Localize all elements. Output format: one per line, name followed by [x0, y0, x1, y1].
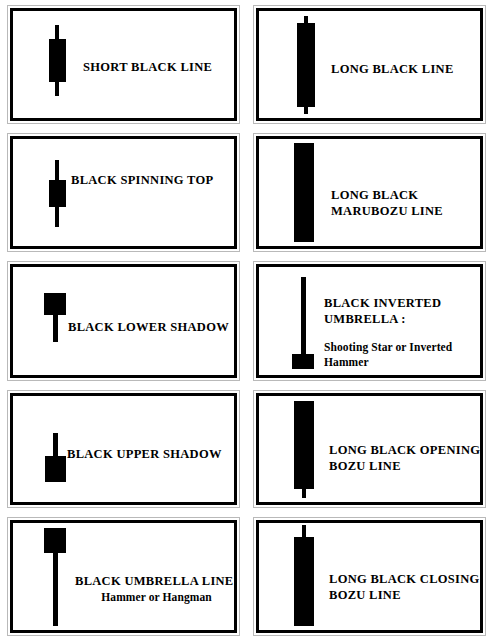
candlestick-panel: LONG BLACK MARUBOZU LINE [253, 133, 486, 252]
panel-frame: LONG BLACK CLOSING BOZU LINE [256, 520, 483, 633]
panel-frame: BLACK INVERTED UMBRELLA :Shooting Star o… [256, 264, 483, 378]
candlestick-panel: BLACK SPINNING TOP [7, 133, 240, 252]
panel-stage: SHORT BLACK LINE [13, 11, 234, 118]
candle-body [297, 23, 315, 108]
panel-label-group: BLACK INVERTED UMBRELLA :Shooting Star o… [324, 295, 483, 370]
candle-body [292, 354, 314, 368]
panel-label-group: BLACK LOWER SHADOW [68, 319, 237, 335]
panel-frame: BLACK UMBRELLA LINE:Hammer or Hangman [10, 520, 237, 633]
panel-title: SHORT BLACK LINE [83, 59, 237, 75]
panel-frame: BLACK UPPER SHADOW [10, 393, 237, 505]
candlestick-black-spinning-top [13, 139, 234, 246]
candlestick-panel: LONG BLACK CLOSING BOZU LINE [253, 517, 486, 636]
panel-frame: LONG BLACK MARUBOZU LINE [256, 136, 483, 249]
candle-body [294, 537, 314, 626]
upper-wick [55, 160, 59, 180]
panel-title: BLACK SPINNING TOP [71, 172, 237, 188]
upper-wick [53, 433, 58, 457]
candlestick-panel: BLACK UMBRELLA LINE:Hammer or Hangman [7, 517, 240, 636]
candlestick-reference-sheet: SHORT BLACK LINELONG BLACK LINEBLACK SPI… [0, 0, 492, 640]
candlestick-panel: LONG BLACK OPENING BOZU LINE [253, 390, 486, 508]
panel-frame: BLACK SPINNING TOP [10, 136, 237, 249]
candle-body [294, 401, 314, 489]
candlestick-grid: SHORT BLACK LINELONG BLACK LINEBLACK SPI… [0, 0, 492, 640]
panel-frame: LONG BLACK LINE [256, 8, 483, 121]
panel-title: LONG BLACK LINE [331, 61, 483, 77]
panel-stage: BLACK SPINNING TOP [13, 139, 234, 246]
lower-wick [53, 313, 58, 341]
panel-subtitle: Shooting Star or Inverted Hammer [324, 340, 483, 370]
candlestick-panel: BLACK UPPER SHADOW [7, 390, 240, 508]
panel-frame: LONG BLACK OPENING BOZU LINE [256, 393, 483, 505]
panel-title: LONG BLACK MARUBOZU LINE [331, 187, 483, 219]
panel-title: LONG BLACK CLOSING BOZU LINE [329, 571, 483, 603]
panel-subtitle: Hammer or Hangman [64, 590, 237, 605]
panel-title: BLACK LOWER SHADOW [68, 319, 237, 335]
panel-stage: BLACK LOWER SHADOW [13, 267, 234, 375]
panel-title: BLACK INVERTED UMBRELLA : [324, 295, 483, 327]
panel-title: LONG BLACK OPENING BOZU LINE [329, 442, 483, 474]
panel-label-group: BLACK UPPER SHADOW [67, 446, 237, 462]
upper-wick [55, 25, 59, 40]
panel-label-group: LONG BLACK CLOSING BOZU LINE [329, 571, 483, 603]
panel-label-group: BLACK SPINNING TOP [71, 172, 237, 188]
panel-frame: BLACK LOWER SHADOW [10, 264, 237, 378]
panel-stage: BLACK INVERTED UMBRELLA :Shooting Star o… [259, 267, 480, 375]
lower-wick [302, 488, 306, 498]
panel-stage: LONG BLACK OPENING BOZU LINE [259, 396, 480, 502]
candle-body [44, 528, 66, 553]
candle-body [294, 143, 314, 241]
candle-body [45, 456, 66, 481]
panel-stage: BLACK UMBRELLA LINE:Hammer or Hangman [13, 523, 234, 630]
panel-label-group: LONG BLACK OPENING BOZU LINE [329, 442, 483, 474]
upper-wick [301, 277, 306, 356]
panel-label-group: BLACK UMBRELLA LINE:Hammer or Hangman [64, 573, 237, 605]
panel-stage: BLACK UPPER SHADOW [13, 396, 234, 502]
panel-title: BLACK UMBRELLA LINE: [64, 573, 237, 589]
candlestick-panel: BLACK LOWER SHADOW [7, 261, 240, 381]
panel-frame: SHORT BLACK LINE [10, 8, 237, 121]
panel-stage: LONG BLACK CLOSING BOZU LINE [259, 523, 480, 630]
candle-body [44, 293, 66, 315]
candlestick-panel: SHORT BLACK LINE [7, 5, 240, 124]
panel-title: BLACK UPPER SHADOW [67, 446, 237, 462]
panel-label-group: SHORT BLACK LINE [83, 59, 237, 75]
lower-wick [55, 206, 59, 226]
lower-wick [304, 106, 308, 113]
panel-stage: LONG BLACK MARUBOZU LINE [259, 139, 480, 246]
candle-body [49, 39, 66, 82]
panel-label-group: LONG BLACK LINE [331, 61, 483, 77]
panel-label-group: LONG BLACK MARUBOZU LINE [331, 187, 483, 219]
candlestick-panel: BLACK INVERTED UMBRELLA :Shooting Star o… [253, 261, 486, 381]
candle-body [49, 180, 66, 208]
lower-wick [53, 552, 58, 626]
candlestick-panel: LONG BLACK LINE [253, 5, 486, 124]
lower-wick [55, 81, 59, 96]
panel-stage: LONG BLACK LINE [259, 11, 480, 118]
